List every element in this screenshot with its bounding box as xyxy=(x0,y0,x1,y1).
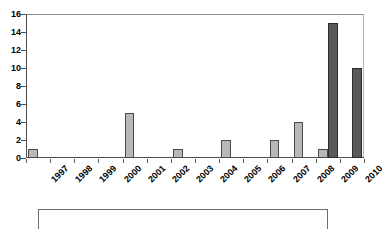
bar xyxy=(173,149,183,158)
x-tick-label: 2001 xyxy=(147,164,168,185)
y-tick-label: 16 xyxy=(11,10,21,19)
bar xyxy=(270,140,280,158)
bar xyxy=(328,23,338,158)
y-tick-label: 12 xyxy=(11,46,21,55)
bar xyxy=(125,113,135,158)
x-tick-label: 2007 xyxy=(291,164,312,185)
bar xyxy=(221,140,231,158)
x-axis-labels: 1997199819992000200120022003200420052006… xyxy=(26,160,364,204)
bar-series-group xyxy=(26,14,364,158)
x-tick-label: 1998 xyxy=(74,164,95,185)
y-tick-label: 10 xyxy=(11,64,21,73)
x-tick-label: 2005 xyxy=(243,164,264,185)
x-tick-label: 2003 xyxy=(195,164,216,185)
bar xyxy=(352,68,362,158)
x-tick-label: 1997 xyxy=(50,164,71,185)
x-tick-label: 2006 xyxy=(267,164,288,185)
x-tick-label: 2008 xyxy=(316,164,337,185)
bar xyxy=(294,122,304,158)
x-tick-label: 2009 xyxy=(340,164,361,185)
x-tick-label: 1999 xyxy=(98,164,119,185)
x-tick-label: 2002 xyxy=(171,164,192,185)
legend-box xyxy=(38,209,328,229)
x-tick-label: 2010 xyxy=(364,164,384,185)
y-tick-label: 14 xyxy=(11,28,21,37)
bar xyxy=(28,149,38,158)
x-tick-mark xyxy=(364,159,365,163)
bar xyxy=(318,149,328,158)
x-tick-label: 2004 xyxy=(219,164,240,185)
x-tick-label: 2000 xyxy=(122,164,143,185)
